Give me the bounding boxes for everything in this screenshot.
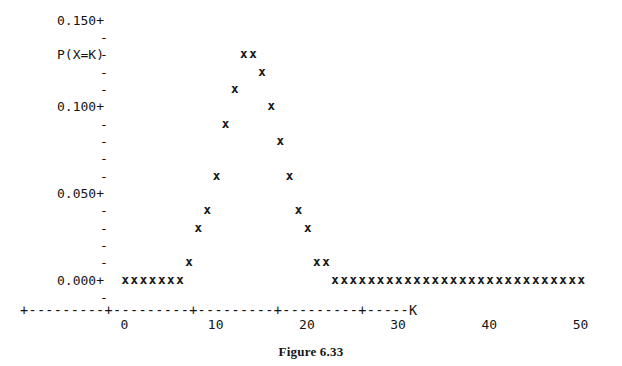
y-axis-tick-label: 0.000+ — [32, 274, 104, 287]
x-axis-tick-label: 10 — [206, 318, 226, 331]
y-axis-minor-tick: - — [99, 256, 109, 269]
y-axis-minor-tick: - — [99, 204, 109, 217]
data-point: x — [413, 274, 421, 287]
data-point: x — [204, 204, 212, 217]
data-point: x — [550, 274, 558, 287]
figure-caption: Figure 6.33 — [0, 344, 622, 360]
y-axis-minor-tick: - — [99, 66, 109, 79]
data-point: x — [559, 274, 567, 287]
data-point: x — [322, 256, 330, 269]
y-axis-tick-label: 0.100+ — [32, 100, 104, 113]
data-point: x — [459, 274, 467, 287]
data-point: x — [258, 66, 266, 79]
data-point: x — [532, 274, 540, 287]
data-point: x — [149, 274, 157, 287]
ascii-probability-plot: 0.150+----0.100+----0.050+----0.000+-P(X… — [0, 0, 622, 366]
y-axis-minor-tick: - — [99, 152, 109, 165]
y-axis-minor-tick: - — [99, 135, 109, 148]
x-axis-line: +---------+---------+---------+---------… — [20, 303, 418, 317]
data-point: x — [377, 274, 385, 287]
data-point: x — [249, 48, 257, 61]
data-point: x — [359, 274, 367, 287]
data-point: x — [514, 274, 522, 287]
data-point: x — [450, 274, 458, 287]
x-axis-tick-label: 0 — [115, 318, 135, 331]
data-point: x — [131, 274, 139, 287]
data-point: x — [122, 274, 130, 287]
data-point: x — [340, 274, 348, 287]
data-point: x — [158, 274, 166, 287]
data-point: x — [568, 274, 576, 287]
y-axis-tick-label: 0.050+ — [32, 187, 104, 200]
x-axis-tick-label: 20 — [297, 318, 317, 331]
data-point: x — [331, 274, 339, 287]
data-point: x — [304, 222, 312, 235]
y-axis-minor-tick: - — [99, 83, 109, 96]
x-axis-tick-label: 50 — [571, 318, 591, 331]
y-axis-tick-label: 0.150+ — [32, 14, 104, 27]
x-axis-tick-label: 30 — [388, 318, 408, 331]
data-point: x — [277, 135, 285, 148]
data-point: x — [213, 170, 221, 183]
y-axis-minor-tick: - — [99, 170, 109, 183]
data-point: x — [432, 274, 440, 287]
data-point: x — [578, 274, 586, 287]
y-axis-minor-tick: - — [99, 31, 109, 44]
data-point: x — [523, 274, 531, 287]
data-point: x — [395, 274, 403, 287]
data-point: x — [422, 274, 430, 287]
data-point: x — [185, 256, 193, 269]
data-point: x — [194, 222, 202, 235]
y-axis-title: P(X=K) — [32, 48, 104, 61]
data-point: x — [240, 48, 248, 61]
data-point: x — [441, 274, 449, 287]
data-point: x — [350, 274, 358, 287]
x-axis-tick-label: 40 — [479, 318, 499, 331]
y-axis-minor-tick: - — [99, 118, 109, 131]
data-point: x — [222, 118, 230, 131]
data-point: x — [140, 274, 148, 287]
y-axis-minor-tick: - — [99, 222, 109, 235]
data-point: x — [505, 274, 513, 287]
data-point: x — [468, 274, 476, 287]
data-point: x — [404, 274, 412, 287]
data-point: x — [267, 100, 275, 113]
data-point: x — [368, 274, 376, 287]
data-point: x — [386, 274, 394, 287]
data-point: x — [477, 274, 485, 287]
data-point: x — [286, 170, 294, 183]
data-point: x — [295, 204, 303, 217]
data-point: x — [541, 274, 549, 287]
data-point: x — [495, 274, 503, 287]
data-point: x — [167, 274, 175, 287]
data-point: x — [313, 256, 321, 269]
data-point: x — [231, 83, 239, 96]
data-point: x — [176, 274, 184, 287]
data-point: x — [486, 274, 494, 287]
y-axis-minor-tick: - — [99, 239, 109, 252]
